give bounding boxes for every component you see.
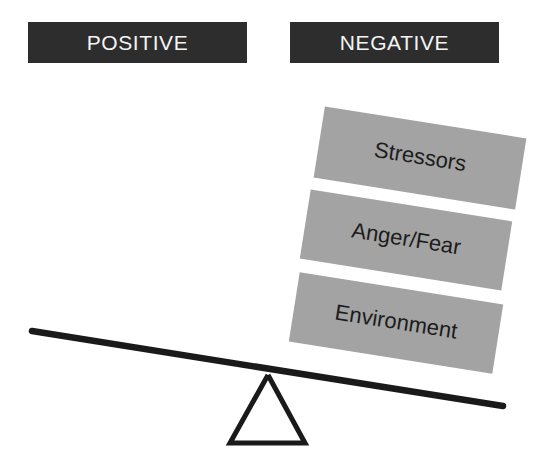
header-bar-positive: POSITIVE — [28, 22, 247, 63]
weight-block-stressors-label: Stressors — [372, 139, 468, 177]
header-bar-negative: NEGATIVE — [290, 22, 499, 63]
weight-block-environment-label: Environment — [333, 301, 459, 344]
diagram-canvas: POSITIVE NEGATIVE Stressors Anger/Fear E… — [0, 0, 546, 475]
weight-block-environment: Environment — [289, 272, 503, 373]
header-bar-positive-label: POSITIVE — [87, 32, 189, 54]
weight-block-anger-fear-label: Anger/Fear — [350, 220, 462, 261]
weight-block-anger-fear: Anger/Fear — [300, 189, 512, 290]
header-bar-negative-label: NEGATIVE — [340, 32, 449, 54]
seesaw-fulcrum-triangle — [230, 375, 305, 443]
